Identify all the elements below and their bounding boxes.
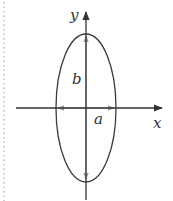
semi-axis-a-label: a	[94, 110, 103, 128]
semi-axis-b-label: b	[72, 70, 82, 88]
x-axis-label: x	[153, 114, 162, 132]
ellipse-diagram: y x b a	[0, 0, 173, 201]
y-axis-label: y	[69, 6, 79, 24]
